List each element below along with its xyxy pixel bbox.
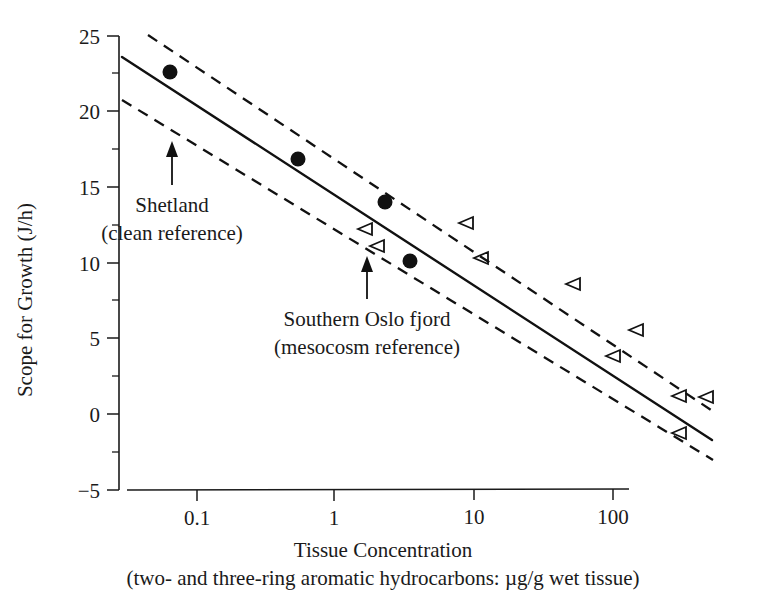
y-tick-label-5: 5 (90, 327, 101, 351)
lower-confidence-band (122, 100, 713, 460)
x-axis-title-line1: Tissue Concentration (294, 538, 473, 562)
scatter-plot-svg: 25 20 15 10 5 0 −5 0.1 1 10 100 Scope fo… (0, 0, 767, 604)
y-tick-label-15: 15 (79, 176, 100, 200)
shetland-label-line1: Shetland (135, 193, 209, 217)
data-point-circle (291, 152, 306, 167)
x-tick-label-0.1: 0.1 (184, 506, 210, 530)
data-point-circle (163, 65, 178, 80)
data-point-triangle (606, 350, 620, 362)
data-point-circle (378, 195, 393, 210)
data-point-triangle (629, 324, 643, 336)
annotation-southern-oslo-fjord: Southern Oslo fjord (mesocosm reference) (274, 256, 460, 359)
y-tick-label-0: 0 (90, 403, 101, 427)
oslo-arrow-head (361, 256, 373, 272)
x-axis-title-line2: (two- and three-ring aromatic hydrocarbo… (126, 566, 639, 590)
y-tick-label-25: 25 (79, 25, 100, 49)
shetland-arrow-head (166, 141, 178, 157)
x-axis (127, 489, 629, 501)
data-point-triangle (358, 223, 372, 235)
data-point-triangle (370, 240, 384, 252)
data-point-circle (403, 254, 418, 269)
data-point-triangle (699, 391, 713, 403)
annotation-shetland: Shetland (clean reference) (101, 141, 243, 245)
x-tick-labels: 0.1 1 10 100 (184, 505, 629, 530)
x-tick-label-1: 1 (329, 506, 340, 530)
figure-container: 25 20 15 10 5 0 −5 0.1 1 10 100 Scope fo… (0, 0, 767, 604)
y-tick-label-20: 20 (79, 100, 100, 124)
y-tick-label-minus5: −5 (78, 479, 100, 503)
y-axis (107, 36, 119, 490)
x-tick-label-100: 100 (597, 505, 629, 529)
oslo-label-line1: Southern Oslo fjord (284, 307, 451, 331)
data-point-triangle (672, 390, 686, 402)
x-tick-label-10: 10 (464, 505, 485, 529)
data-point-triangle (566, 278, 580, 290)
clipped-header-text (0, 0, 767, 5)
y-axis-title: Scope for Growth (J/h) (13, 203, 37, 397)
x-axis-spine (127, 489, 629, 490)
regression-fit-line (122, 57, 712, 440)
y-tick-label-10: 10 (79, 252, 100, 276)
data-point-triangle (459, 217, 473, 229)
shetland-label-line2: (clean reference) (101, 221, 243, 245)
y-tick-labels: 25 20 15 10 5 0 −5 (78, 25, 100, 503)
oslo-label-line2: (mesocosm reference) (274, 335, 460, 359)
